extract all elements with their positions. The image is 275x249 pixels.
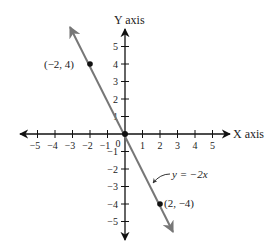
x-tick-label: −4 <box>47 140 58 151</box>
point-neg2-4 <box>87 61 93 67</box>
coordinate-plane: −5 −4 −3 −2 −1 0 1 2 3 4 5 5 4 3 2 1 −1 … <box>0 0 275 249</box>
y-tick-label: 2 <box>113 94 118 105</box>
x-tick-label: 5 <box>210 140 215 151</box>
y-tick-label: −5 <box>107 216 118 227</box>
y-tick-label: −2 <box>107 164 118 175</box>
y-tick-label: 4 <box>113 59 118 70</box>
point-label-2-neg4: (2, −4) <box>164 197 194 210</box>
equation-pointer-arrow <box>153 174 170 183</box>
y-tick-label: 5 <box>113 41 118 52</box>
point-origin <box>122 131 128 137</box>
y-tick-label: −1 <box>107 146 118 157</box>
x-tick-label: −5 <box>30 140 41 151</box>
point-2-neg4 <box>157 201 163 207</box>
x-tick-label: 3 <box>175 140 180 151</box>
y-tick-label: 3 <box>113 76 118 87</box>
x-axis-label: X axis <box>233 127 264 141</box>
line-y-equals-neg2x <box>70 27 173 232</box>
y-tick-label: −3 <box>107 181 118 192</box>
point-label-neg2-4: (−2, 4) <box>44 58 74 71</box>
x-tick-label: −3 <box>65 140 76 151</box>
y-axis-label: Y axis <box>114 13 145 27</box>
equation-label: y = −2x <box>171 168 208 180</box>
x-tick-label: 4 <box>193 140 198 151</box>
x-tick-label: 1 <box>140 140 145 151</box>
x-tick-label: 2 <box>158 140 163 151</box>
y-tick-label: −4 <box>107 199 118 210</box>
x-tick-label: −2 <box>82 140 93 151</box>
